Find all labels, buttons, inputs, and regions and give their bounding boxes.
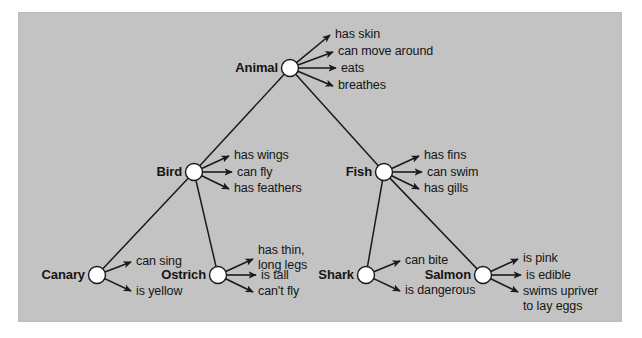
- property-arrow-salmon-0: [491, 259, 518, 271]
- property-arrow-animal-0: [297, 35, 330, 63]
- property-label-animal-1: can move around: [338, 44, 433, 59]
- isa-link-ostrich-to-bird: [196, 180, 216, 266]
- property-label-salmon-2: swims upriver to lay eggs: [523, 284, 598, 313]
- property-arrow-animal-1: [298, 52, 333, 65]
- property-label-ostrich-2: can't fly: [258, 284, 299, 299]
- node-circle-animal[interactable]: [282, 60, 299, 77]
- node-label-fish: Fish: [0, 165, 372, 180]
- node-label-salmon: Salmon: [0, 268, 471, 283]
- property-label-animal-3: breathes: [338, 78, 386, 93]
- property-label-animal-2: eats: [341, 61, 364, 76]
- diagram-canvas: has skincan move aroundeatsbreatheshas w…: [0, 0, 642, 338]
- node-label-animal: Animal: [0, 61, 278, 76]
- property-arrow-animal-3: [298, 71, 333, 86]
- property-label-canary-1: is yellow: [136, 284, 182, 299]
- node-circle-fish[interactable]: [376, 164, 393, 181]
- property-label-shark-0: can bite: [405, 253, 448, 268]
- property-arrow-fish-0: [392, 156, 419, 168]
- isa-link-shark-to-fish: [367, 180, 382, 266]
- property-label-bird-2: has feathers: [234, 181, 302, 196]
- property-arrow-salmon-2: [491, 279, 518, 292]
- property-label-salmon-0: is pink: [523, 251, 558, 266]
- property-label-fish-1: can swim: [427, 165, 478, 180]
- property-label-salmon-1: is edible: [526, 268, 571, 283]
- property-arrow-fish-2: [392, 176, 419, 189]
- property-label-shark-1: is dangerous: [405, 283, 475, 298]
- node-circle-salmon[interactable]: [475, 267, 492, 284]
- property-label-bird-0: has wings: [234, 148, 289, 163]
- property-label-fish-2: has gills: [424, 181, 468, 196]
- property-label-fish-0: has fins: [424, 148, 466, 163]
- property-label-animal-0: has skin: [335, 27, 380, 42]
